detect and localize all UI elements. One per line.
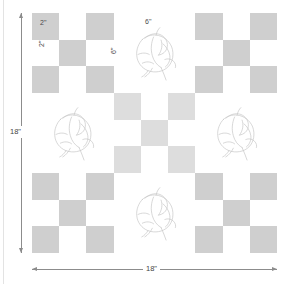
block-bottom-center xyxy=(114,173,196,253)
block-width-label: 6" xyxy=(145,18,152,25)
block-middle-left xyxy=(32,93,114,173)
checker-cell xyxy=(59,66,86,93)
checker-cell xyxy=(141,93,168,120)
arrow-right-icon xyxy=(272,267,277,271)
checker-cell xyxy=(32,173,59,200)
checkerboard-light xyxy=(114,93,196,173)
checkerboard xyxy=(195,173,277,253)
checker-cell xyxy=(223,173,250,200)
arrow-down-icon xyxy=(19,248,23,253)
checker-cell xyxy=(223,66,250,93)
block-top-center xyxy=(114,13,196,93)
cotton-boll-illustration xyxy=(32,93,114,173)
checker-cell xyxy=(223,13,250,40)
checker-cell xyxy=(250,40,277,67)
checker-cell xyxy=(195,226,222,253)
checkerboard xyxy=(195,13,277,93)
vertical-dimension-label: 18" xyxy=(9,126,22,138)
cotton-boll-illustration xyxy=(195,93,277,173)
checker-cell xyxy=(86,173,113,200)
checker-cell xyxy=(168,120,195,147)
checkerboard xyxy=(32,173,114,253)
checker-cell xyxy=(59,200,86,227)
checker-cell xyxy=(250,226,277,253)
checker-cell xyxy=(250,66,277,93)
block-bottom-left xyxy=(32,173,114,253)
checker-cell xyxy=(168,146,195,173)
checker-cell xyxy=(195,66,222,93)
checker-cell xyxy=(114,120,141,147)
checker-cell xyxy=(250,173,277,200)
checker-cell xyxy=(223,200,250,227)
checker-cell xyxy=(250,13,277,40)
horizontal-dimension-label: 18" xyxy=(143,264,160,274)
checker-cell xyxy=(32,66,59,93)
checker-cell xyxy=(86,66,113,93)
checker-cell xyxy=(86,200,113,227)
checker-cell xyxy=(86,226,113,253)
block-top-right xyxy=(195,13,277,93)
checker-cell xyxy=(59,13,86,40)
cotton-boll-illustration xyxy=(114,13,196,93)
checker-cell xyxy=(141,120,168,147)
checker-cell xyxy=(32,40,59,67)
cotton-boll-illustration xyxy=(114,173,196,253)
checker-cell xyxy=(114,93,141,120)
block-height-label: 6" xyxy=(110,47,117,54)
page-edge-line xyxy=(3,0,4,284)
checker-cell xyxy=(114,146,141,173)
checker-cell xyxy=(86,13,113,40)
checker-cell xyxy=(59,173,86,200)
checker-cell xyxy=(223,226,250,253)
checker-cell xyxy=(195,40,222,67)
checker-cell xyxy=(168,93,195,120)
block-center xyxy=(114,93,196,173)
block-bottom-right xyxy=(195,173,277,253)
checker-cell xyxy=(195,173,222,200)
checker-cell xyxy=(141,146,168,173)
checker-cell xyxy=(195,200,222,227)
block-middle-right xyxy=(195,93,277,173)
checker-cell xyxy=(195,13,222,40)
unit-square-width-label: 2" xyxy=(40,19,47,26)
checker-cell xyxy=(32,13,59,40)
checker-cell xyxy=(59,226,86,253)
checker-cell xyxy=(32,200,59,227)
checker-cell xyxy=(223,40,250,67)
arrow-up-icon xyxy=(19,13,23,18)
checker-cell xyxy=(250,200,277,227)
quilt-grid xyxy=(32,13,277,253)
unit-square-height-label: 2" xyxy=(38,40,45,47)
arrow-left-icon xyxy=(32,267,37,271)
checker-cell xyxy=(59,40,86,67)
checker-cell xyxy=(32,226,59,253)
quilt-diagram-canvas: 18" 18" xyxy=(0,0,294,284)
